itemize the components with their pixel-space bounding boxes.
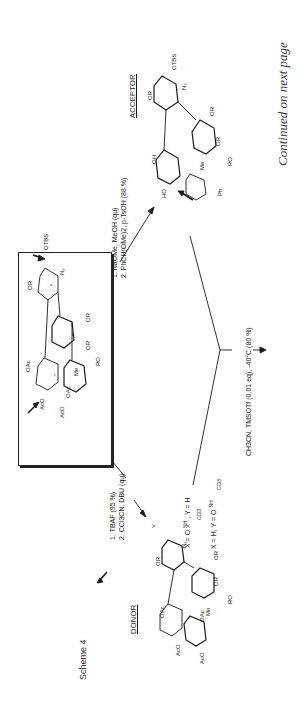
donor-structure [160,540,214,646]
svg-text:OR: OR [85,340,91,350]
svg-text:OR: OR [213,550,219,560]
svg-text:Ph: Ph [217,189,223,196]
svg-text:OTBS: OTBS [43,234,49,250]
svg-text:AcO: AcO [59,406,65,418]
svg-text:Me: Me [199,161,205,170]
converge-line-top [190,236,220,350]
svg-text:Me: Me [73,367,79,376]
svg-text:Me: Me [205,607,211,616]
svg-text:Y: Y [151,524,157,528]
svg-text:OAc: OAc [199,610,205,622]
svg-text:AcO: AcO [175,644,181,656]
svg-text:AcO: AcO [39,398,45,410]
svg-text:OR: OR [147,90,153,100]
svg-text:OR: OR [155,556,161,566]
svg-text:X: X [185,524,191,528]
svg-text:OR: OR [27,280,33,290]
svg-text:a: a [50,282,53,287]
svg-text:N₃: N₃ [181,541,187,548]
svg-text:N₃: N₃ [181,83,187,90]
svg-text:HO: HO [161,189,167,198]
svg-text:OH: OH [151,155,157,164]
svg-text:c: c [54,372,56,377]
svg-text:OAc: OAc [65,386,71,398]
arrowhead-acceptor-icon [148,207,154,214]
svg-text:N₃: N₃ [59,268,65,275]
svg-text:OR: OR [215,136,221,146]
arrow-to-acceptor [120,207,154,262]
pointer-otbs-icon [38,255,45,261]
svg-text:OR: OR [209,106,215,116]
svg-text:RO: RO [95,357,101,366]
svg-text:RO: RO [227,157,233,166]
svg-text:AcO: AcO [199,652,205,664]
svg-text:b: b [72,332,75,337]
converge-line-bottom [193,350,220,485]
svg-text:OR: OR [85,312,91,322]
svg-text:OTBS: OTBS [171,54,177,70]
svg-text:OR: OR [213,576,219,586]
arrowhead-donor-icon [140,510,146,517]
scheme-drawing: OTBS N₃ OR a OR OR RO b Me OAc c OAc AcO… [0,0,298,704]
acceptor-structure [154,76,216,200]
svg-text:OAc: OAc [25,360,31,372]
svg-text:OAc: OAc [159,606,165,618]
svg-text:RO: RO [227,595,233,604]
arrowhead-coupling-icon [260,347,266,353]
pointer-acceptor-icon [178,191,184,196]
